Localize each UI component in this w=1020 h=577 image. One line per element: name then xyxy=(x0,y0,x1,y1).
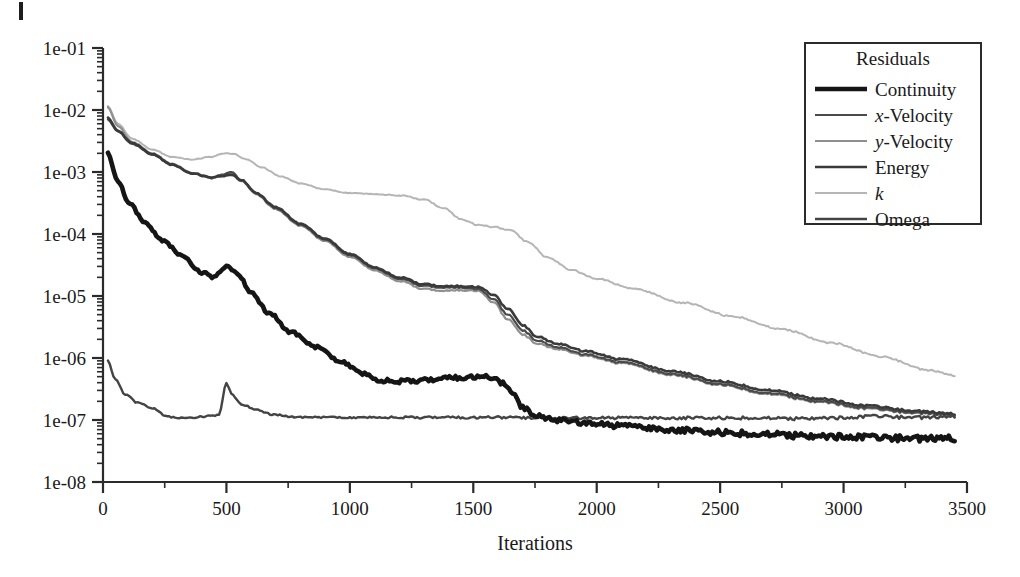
y-tick-label: 1e-05 xyxy=(43,286,86,307)
residuals-plot: 1e-011e-021e-031e-041e-051e-061e-071e-08… xyxy=(0,0,1020,577)
legend-label: k xyxy=(875,183,884,204)
x-axis-title: Iterations xyxy=(497,532,573,554)
x-tick-label: 1000 xyxy=(331,498,369,519)
chart-figure: 1e-011e-021e-031e-041e-051e-061e-071e-08… xyxy=(0,0,1020,577)
x-tick-label: 3000 xyxy=(825,498,863,519)
y-tick-label: 1e-06 xyxy=(43,348,86,369)
y-tick-label: 1e-04 xyxy=(43,224,87,245)
y-tick-label: 1e-08 xyxy=(43,472,86,493)
legend-label: x-Velocity xyxy=(874,105,954,126)
y-tick-label: 1e-02 xyxy=(43,100,86,121)
legend-title: Residuals xyxy=(856,48,930,69)
x-tick-label: 500 xyxy=(212,498,241,519)
legend-label: Continuity xyxy=(875,79,957,100)
x-tick-label: 2000 xyxy=(578,498,616,519)
legend-label: y-Velocity xyxy=(873,131,954,152)
y-tick-label: 1e-01 xyxy=(43,38,86,59)
y-tick-label: 1e-07 xyxy=(43,410,86,431)
legend-label: Energy xyxy=(875,157,930,178)
legend-label: Omega xyxy=(875,209,930,230)
x-tick-label: 0 xyxy=(98,498,108,519)
x-tick-label: 2500 xyxy=(701,498,739,519)
x-tick-label: 3500 xyxy=(948,498,986,519)
y-tick-label: 1e-03 xyxy=(43,162,86,183)
legend: ResidualsContinuityx-Velocityy-VelocityE… xyxy=(805,43,981,230)
x-tick-label: 1500 xyxy=(454,498,492,519)
